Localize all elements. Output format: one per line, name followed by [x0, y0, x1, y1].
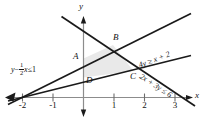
left-ineq-rhs: 1 — [32, 65, 36, 74]
x-tick-label-3: 3 — [170, 101, 180, 110]
vertex-label-a: A — [73, 52, 79, 61]
y-axis-arrow-up — [81, 16, 86, 24]
line-2x-plus-3y — [62, 17, 196, 107]
y-axis-arrow-down — [81, 110, 86, 118]
left-ineq-minus: − — [15, 65, 20, 74]
x-tick-label-minus-1: -1 — [46, 101, 61, 110]
vertex-label-c: C — [130, 72, 136, 81]
inequalities-graph-figure: y x -2 -1 1 2 3 A B C D y−12x≤1 4y ≥ x +… — [0, 0, 204, 124]
x-axis-label: x — [195, 91, 199, 100]
x-tick-label-2: 2 — [140, 101, 150, 110]
x-tick-label-minus-2: -2 — [15, 101, 30, 110]
annotation-left-inequality: y−12x≤1 — [11, 62, 36, 77]
x-axis-arrow-right — [186, 95, 193, 100]
shaded-feasible-region — [84, 45, 134, 78]
vertex-label-b: B — [113, 33, 119, 42]
vertex-label-d: D — [86, 76, 93, 85]
y-axis-label: y — [79, 2, 83, 11]
x-tick-label-1: 1 — [109, 101, 119, 110]
